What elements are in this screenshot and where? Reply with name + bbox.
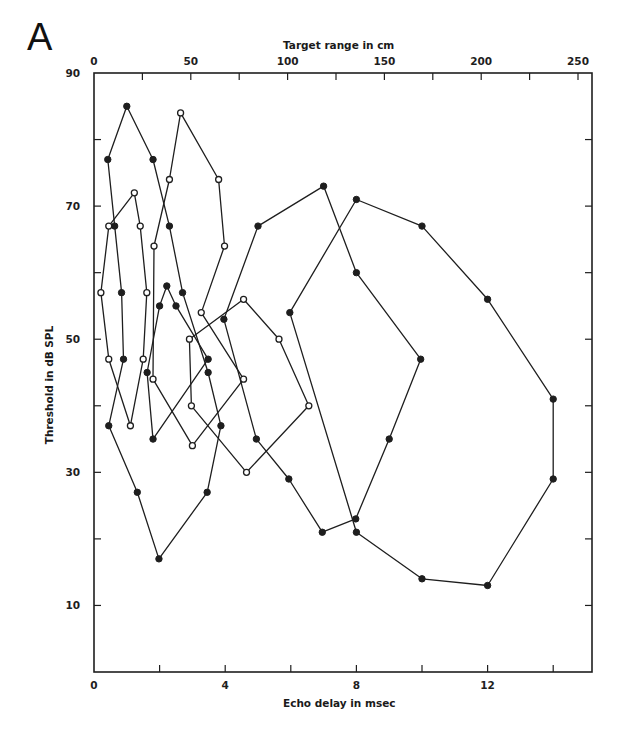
top-tick-label: 100 [277, 55, 299, 67]
filled-point-marker [179, 289, 185, 295]
open-point-marker [106, 356, 112, 362]
plot-frame [94, 73, 592, 672]
y-tick-label: 90 [65, 67, 80, 79]
top-tick-label: 50 [183, 55, 198, 67]
filled-point-marker [253, 436, 259, 442]
open-point-marker [241, 376, 247, 382]
filled-point-marker [164, 283, 170, 289]
series-loop-1 [105, 103, 225, 562]
y-axis-title: Threshold in dB SPL [43, 326, 55, 445]
filled-point-marker [173, 303, 179, 309]
filled-point-marker [417, 356, 423, 362]
filled-point-marker [221, 316, 227, 322]
data-series [98, 103, 557, 589]
open-point-marker [188, 403, 194, 409]
filled-point-marker [353, 269, 359, 275]
open-point-marker [150, 376, 156, 382]
open-point-marker [106, 223, 112, 229]
filled-point-marker [166, 223, 172, 229]
top-axis-title: Target range in cm [283, 39, 394, 51]
filled-point-marker [118, 289, 124, 295]
series-loop-4 [150, 110, 247, 449]
axis-ticks [94, 73, 592, 672]
filled-point-marker [353, 529, 359, 535]
filled-point-marker [419, 576, 425, 582]
filled-point-marker [205, 356, 211, 362]
filled-point-marker [134, 489, 140, 495]
filled-point-marker [419, 223, 425, 229]
y-tick-label: 50 [65, 333, 80, 345]
open-point-marker [140, 356, 146, 362]
x-tick-label: 4 [222, 679, 229, 691]
filled-point-marker [550, 476, 556, 482]
top-tick-label: 200 [470, 55, 492, 67]
open-point-marker [198, 310, 204, 316]
filled-point-marker [150, 436, 156, 442]
filled-point-marker [106, 423, 112, 429]
filled-point-marker [124, 103, 130, 109]
filled-point-marker [484, 296, 490, 302]
filled-point-marker [204, 489, 210, 495]
filled-point-marker [287, 309, 293, 315]
series-loop-6 [221, 183, 424, 535]
open-point-marker [244, 469, 250, 475]
series-line [290, 200, 553, 586]
open-point-marker [98, 290, 104, 296]
x-tick-label: 12 [480, 679, 495, 691]
open-point-marker [276, 336, 282, 342]
series-line [189, 299, 308, 472]
filled-point-marker [205, 369, 211, 375]
y-tick-label: 70 [65, 200, 80, 212]
top-tick-label: 0 [90, 55, 97, 67]
series-line [153, 113, 244, 446]
open-point-marker [189, 443, 195, 449]
series-loop-2 [98, 190, 150, 429]
y-tick-label: 30 [65, 466, 80, 478]
filled-point-marker [150, 156, 156, 162]
open-point-marker [166, 176, 172, 182]
top-tick-label: 150 [373, 55, 395, 67]
open-point-marker [127, 423, 133, 429]
open-point-marker [186, 336, 192, 342]
plot-border [94, 73, 592, 672]
filled-point-marker [286, 476, 292, 482]
filled-point-marker [484, 582, 490, 588]
plot-area: 048120501001502002501030507090 [0, 0, 627, 744]
open-point-marker [137, 223, 143, 229]
open-point-marker [144, 290, 150, 296]
filled-point-marker [111, 223, 117, 229]
open-point-marker [241, 296, 247, 302]
open-point-marker [306, 403, 312, 409]
filled-point-marker [120, 356, 126, 362]
filled-point-marker [105, 156, 111, 162]
x-axis-title: Echo delay in msec [283, 697, 396, 709]
filled-point-marker [550, 396, 556, 402]
filled-point-marker [255, 223, 261, 229]
open-point-marker [151, 243, 157, 249]
filled-point-marker [386, 436, 392, 442]
filled-point-marker [218, 423, 224, 429]
x-tick-label: 0 [90, 679, 97, 691]
x-tick-label: 8 [353, 679, 360, 691]
series-line [224, 186, 421, 532]
filled-point-marker [320, 183, 326, 189]
filled-point-marker [156, 556, 162, 562]
open-point-marker [131, 190, 137, 196]
open-point-marker [216, 176, 222, 182]
top-tick-label: 250 [567, 55, 589, 67]
y-tick-label: 10 [65, 599, 80, 611]
filled-point-marker [156, 303, 162, 309]
filled-point-marker [144, 369, 150, 375]
open-point-marker [222, 243, 228, 249]
open-point-marker [178, 110, 184, 116]
filled-point-marker [319, 529, 325, 535]
filled-point-marker [353, 196, 359, 202]
